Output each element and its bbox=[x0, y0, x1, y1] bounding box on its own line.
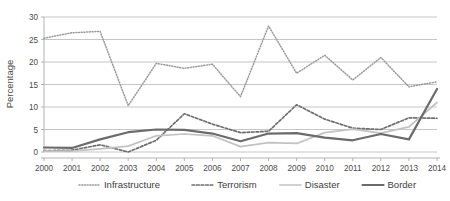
y-tick-label: 0 bbox=[33, 148, 38, 157]
x-tick-label: 2013 bbox=[400, 164, 419, 173]
y-tick-label: 15 bbox=[29, 81, 39, 90]
legend-label-infrastructure: Infrastructure bbox=[104, 179, 160, 190]
x-tick-label: 2009 bbox=[288, 164, 307, 173]
x-tick-label: 2008 bbox=[259, 164, 278, 173]
y-tick-label: 25 bbox=[29, 36, 39, 45]
x-tick-label: 2003 bbox=[119, 164, 138, 173]
y-tick-label: 10 bbox=[29, 103, 39, 112]
x-tick-label: 2010 bbox=[316, 164, 335, 173]
x-tick-label: 2004 bbox=[147, 164, 166, 173]
legend-label-terrorism: Terrorism bbox=[217, 179, 257, 190]
x-tick-label: 2001 bbox=[63, 164, 82, 173]
legend-label-border: Border bbox=[388, 179, 417, 190]
x-tick-label: 2011 bbox=[344, 164, 362, 173]
x-tick-label: 2005 bbox=[175, 164, 194, 173]
x-tick-label: 2014 bbox=[428, 164, 447, 173]
y-tick-label: 30 bbox=[29, 13, 39, 22]
line-chart: 051015202530 200020012002200320042005200… bbox=[0, 0, 450, 201]
x-tick-label: 2006 bbox=[203, 164, 222, 173]
y-tick-label: 5 bbox=[33, 126, 38, 135]
chart-plot-svg: 051015202530 200020012002200320042005200… bbox=[0, 0, 450, 201]
y-tick-label: 20 bbox=[29, 58, 39, 67]
legend-label-disaster: Disaster bbox=[305, 179, 340, 190]
x-tick-label: 2012 bbox=[372, 164, 391, 173]
x-tick-label: 2000 bbox=[35, 164, 54, 173]
x-tick-label: 2007 bbox=[231, 164, 250, 173]
x-tick-label: 2002 bbox=[91, 164, 110, 173]
y-axis-label: Percentage bbox=[4, 60, 15, 109]
x-tick-labels-group: 2000200120022003200420052006200720082009… bbox=[35, 164, 447, 173]
